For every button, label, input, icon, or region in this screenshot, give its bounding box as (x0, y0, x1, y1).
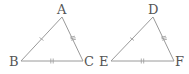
congruent-triangles-diagram: A B C D E F (0, 0, 189, 74)
vertex-label-e: E (99, 54, 109, 69)
triangle-def: D E F (99, 2, 184, 69)
vertex-label-d: D (148, 2, 158, 17)
vertex-label-f: F (175, 54, 184, 69)
vertex-label-c: C (84, 54, 94, 69)
vertex-label-a: A (56, 2, 67, 17)
triangle-def-outline (111, 17, 174, 61)
tick-ac (70, 36, 76, 40)
triangle-abc-outline (21, 17, 83, 61)
triangle-abc: A B C (9, 2, 94, 69)
tick-df (161, 36, 167, 40)
vertex-label-b: B (9, 54, 19, 69)
